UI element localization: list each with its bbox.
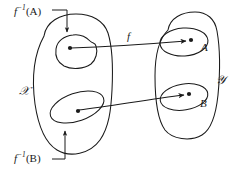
label-set-b: B [200, 98, 207, 109]
label-preimage-b-arg: (B) [26, 152, 41, 164]
label-preimage-b-exponent: −1 [17, 150, 26, 159]
label-domain-x: 𝒳 [19, 85, 29, 97]
label-preimage-a: f−1(A) [14, 4, 41, 17]
callout-arrow-preimage-a [52, 10, 67, 32]
label-preimage-a-exponent: −1 [17, 3, 26, 12]
label-preimage-a-arg: (A) [26, 5, 41, 17]
map-arrow-lower [79, 95, 184, 110]
label-function-f: f [127, 31, 130, 42]
map-arrow-upper [71, 41, 186, 48]
callout-arrow-preimage-b [52, 131, 65, 159]
point-in-b [187, 92, 191, 96]
codomain-outer-blob [155, 12, 219, 139]
set-mapping-figure: f−1(A) f−1(B) 𝒳 𝒴 A B f [0, 0, 245, 174]
figure-canvas [0, 0, 245, 174]
point-in-preimage-a [68, 46, 72, 50]
point-in-a [189, 38, 193, 42]
inner-blob-preimage-a [56, 35, 97, 69]
label-codomain-y: 𝒴 [216, 74, 225, 86]
label-set-a: A [201, 42, 208, 53]
label-preimage-b: f−1(B) [14, 151, 41, 164]
point-in-preimage-b [76, 109, 80, 113]
